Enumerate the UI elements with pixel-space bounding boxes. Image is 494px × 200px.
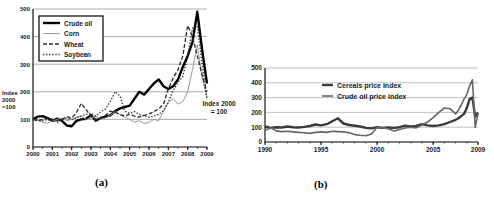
two-panel-price-index-figure: 0100200300400500200020012002200320042005… <box>0 0 494 200</box>
svg-text:400: 400 <box>251 79 262 86</box>
svg-text:2001: 2001 <box>46 151 60 157</box>
svg-text:200: 200 <box>20 89 31 95</box>
legend-entry-label: Crude oil <box>64 20 92 27</box>
svg-text:500: 500 <box>20 6 31 12</box>
chart-b-cereals-vs-crude: 010020030040050019901995200020052009Cere… <box>190 0 494 200</box>
legend-entry-label: Wheat <box>64 41 84 48</box>
chart-a-y-axis-label: Index 2000 =100 <box>2 90 18 111</box>
svg-text:2002: 2002 <box>65 151 79 157</box>
svg-text:500: 500 <box>251 64 262 71</box>
svg-text:2000: 2000 <box>26 151 40 157</box>
legend-entry-label: Cereals price index <box>337 82 401 90</box>
svg-text:2003: 2003 <box>84 151 98 157</box>
svg-text:100: 100 <box>251 124 262 131</box>
svg-text:2004: 2004 <box>104 151 118 157</box>
svg-text:2006: 2006 <box>142 151 156 157</box>
svg-text:2007: 2007 <box>162 151 176 157</box>
svg-text:200: 200 <box>251 109 262 116</box>
chart-b-caption: (b) <box>314 178 327 190</box>
chart-a-caption: (a) <box>95 176 108 188</box>
svg-text:1990: 1990 <box>258 146 273 153</box>
chart-b-y-axis-label: Index 2000 = 100 <box>196 100 242 116</box>
svg-text:2009: 2009 <box>471 146 486 153</box>
legend-entry-label: Crude oil price index <box>337 93 406 101</box>
svg-text:2000: 2000 <box>370 146 385 153</box>
svg-text:0: 0 <box>258 138 262 145</box>
svg-text:100: 100 <box>20 117 31 123</box>
legend-entry-label: Soybean <box>64 51 91 59</box>
svg-text:0: 0 <box>27 144 31 150</box>
svg-text:300: 300 <box>251 94 262 101</box>
svg-text:2005: 2005 <box>426 146 441 153</box>
svg-text:1995: 1995 <box>314 146 329 153</box>
legend-entry-label: Corn <box>64 30 79 37</box>
svg-text:2005: 2005 <box>123 151 137 157</box>
svg-text:400: 400 <box>20 34 31 40</box>
svg-text:300: 300 <box>20 62 31 68</box>
